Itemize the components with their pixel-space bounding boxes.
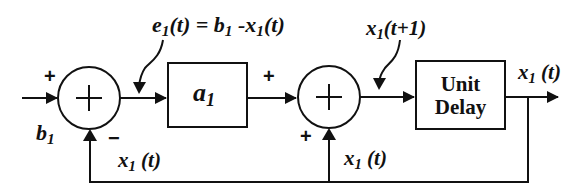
gain-label: a1 xyxy=(193,80,215,109)
sum2-feedback-plus-sign: + xyxy=(300,126,312,146)
sum1-minus-sign: − xyxy=(108,128,120,148)
feedback-label-2: x1 (t) xyxy=(344,148,387,171)
input-label: b1 xyxy=(36,122,55,146)
unit-delay-label: Unit Delay xyxy=(416,73,505,119)
feedback-label-1: x1 (t) xyxy=(118,150,161,173)
sum2-plus-sign: + xyxy=(263,66,275,86)
error-signal-label: e1(t) = b1 -x1(t) xyxy=(152,14,285,38)
sum1-plus-sign: + xyxy=(44,66,56,86)
output-label: x1 (t) xyxy=(518,62,561,85)
block-diagram: a1 Unit Delay e1(t) = b1 -x1(t) x1(t+1) … xyxy=(0,0,588,196)
next-state-label: x1(t+1) xyxy=(366,18,426,41)
